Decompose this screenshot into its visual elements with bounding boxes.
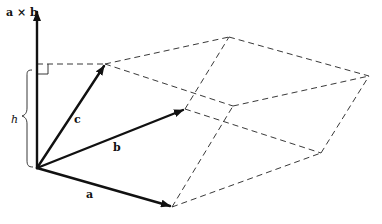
edge-a-to-ac — [172, 106, 233, 207]
vector-a — [37, 168, 170, 206]
label-a: a — [86, 188, 93, 201]
parallelepiped-diagram: a × b a b c h — [0, 0, 382, 224]
label-c: c — [74, 113, 81, 126]
right-angle-marker — [37, 64, 48, 74]
height-brace — [22, 70, 33, 167]
edge-b-to-bc — [185, 37, 229, 109]
edge-bc-to-abc — [229, 37, 369, 76]
edge-ab-to-abc — [321, 76, 369, 153]
edge-b-to-ab — [185, 109, 321, 153]
edge-c-to-ac — [105, 64, 233, 106]
vector-b — [37, 110, 183, 168]
label-b: b — [113, 141, 121, 154]
vector-c — [37, 66, 104, 168]
edge-ac-to-abc — [233, 76, 369, 106]
label-axis: a × b — [6, 6, 38, 19]
label-height: h — [11, 113, 18, 126]
edge-a-to-ab — [172, 153, 321, 207]
edge-c-to-bc — [105, 37, 229, 64]
